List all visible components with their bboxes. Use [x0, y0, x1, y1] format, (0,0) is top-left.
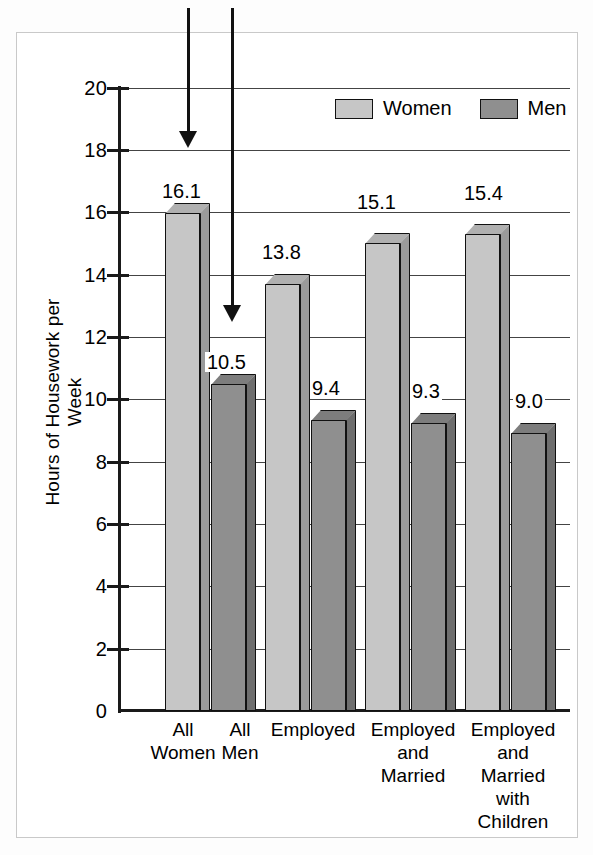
- gridline-20: [128, 88, 570, 89]
- y-tick-label-20: 20: [65, 78, 107, 98]
- chart-plot-area: 20 18 16 14 12 10 8 6 4 2 0 Hours of Hou…: [0, 0, 593, 855]
- chart-legend: Women Men: [335, 97, 584, 120]
- bar-value-label-16-1: 16.1: [160, 181, 203, 201]
- gridline-18: [128, 150, 570, 151]
- bar-value-label-15-4: 15.4: [462, 183, 505, 203]
- y-tick-20: [107, 87, 129, 90]
- bar-value-label-10-5: 10.5: [205, 352, 248, 372]
- bar-value-label-9-4: 9.4: [310, 378, 342, 398]
- y-tick-label-2: 2: [65, 639, 107, 659]
- y-tick-8: [107, 461, 129, 464]
- legend-swatch-women: [335, 99, 373, 119]
- y-tick-14: [107, 274, 129, 277]
- legend-label-men: Men: [528, 97, 567, 120]
- legend-label-women: Women: [383, 97, 452, 120]
- y-axis-title: Hours of Housework per Week: [42, 272, 86, 532]
- annotation-arrow-head-all-women: [179, 131, 197, 148]
- y-tick-6: [107, 523, 129, 526]
- y-tick-4: [107, 585, 129, 588]
- legend-swatch-men: [480, 99, 518, 119]
- x-category-label-employed: Employed: [258, 718, 368, 741]
- bar-value-label-15-1: 15.1: [355, 192, 398, 212]
- x-category-label-employed-married-children: Employed and Married with Children: [458, 718, 568, 833]
- y-tick-2: [107, 648, 129, 651]
- y-tick-12: [107, 336, 129, 339]
- chart-screenshot: 20 18 16 14 12 10 8 6 4 2 0 Hours of Hou…: [0, 0, 593, 855]
- annotation-arrow-line-all-men: [231, 8, 234, 308]
- y-tick-label-4: 4: [65, 576, 107, 596]
- bar-value-label-9-0: 9.0: [513, 391, 545, 411]
- bar-value-label-9-3: 9.3: [410, 381, 442, 401]
- y-tick-label-0: 0: [65, 701, 107, 721]
- annotation-arrow-line-all-women: [187, 8, 190, 134]
- annotation-arrow-head-all-men: [223, 305, 241, 322]
- bar-value-label-13-8: 13.8: [260, 242, 303, 262]
- y-tick-18: [107, 149, 129, 152]
- y-tick-label-16: 16: [65, 202, 107, 222]
- y-tick-label-18: 18: [65, 140, 107, 160]
- y-tick-10: [107, 398, 129, 401]
- y-tick-16: [107, 211, 129, 214]
- x-category-label-employed-married: Employed and Married: [358, 718, 468, 787]
